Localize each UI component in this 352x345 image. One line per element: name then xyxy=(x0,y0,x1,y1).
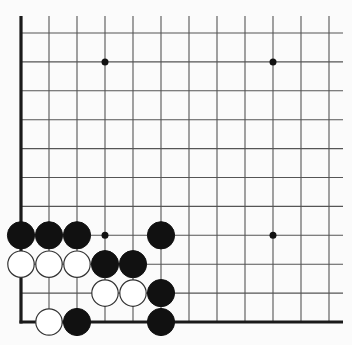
black-stone xyxy=(63,308,90,335)
go-board xyxy=(0,0,352,345)
black-stone xyxy=(147,308,174,335)
black-stone xyxy=(147,222,174,249)
black-stone xyxy=(63,222,90,249)
star-point-icon xyxy=(102,232,109,239)
white-stone xyxy=(92,280,118,306)
white-stone xyxy=(120,280,146,306)
black-stone xyxy=(7,222,34,249)
white-stone xyxy=(36,309,62,335)
white-stone xyxy=(36,251,62,277)
stones xyxy=(7,222,174,336)
black-stone xyxy=(35,222,62,249)
star-point-icon xyxy=(102,58,109,65)
star-point-icon xyxy=(270,58,277,65)
star-point-icon xyxy=(270,232,277,239)
black-stone xyxy=(91,251,118,278)
black-stone xyxy=(119,251,146,278)
white-stone xyxy=(8,251,34,277)
board-grid xyxy=(20,16,344,324)
black-stone xyxy=(147,280,174,307)
white-stone xyxy=(64,251,90,277)
